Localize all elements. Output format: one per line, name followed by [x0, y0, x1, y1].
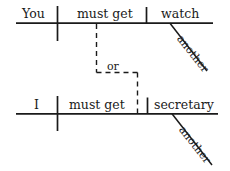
top-subject-label: You — [22, 8, 45, 21]
bottom-object-label: secretary — [154, 99, 214, 112]
top-object-label: watch — [161, 8, 199, 21]
top-verb-label: must get — [77, 8, 133, 21]
conjunction-label: or — [107, 61, 119, 72]
bottom-subject-label: I — [34, 99, 39, 112]
bottom-verb-label: must get — [69, 99, 125, 112]
sentence-diagram: You must get watch another or I must get… — [0, 0, 230, 171]
